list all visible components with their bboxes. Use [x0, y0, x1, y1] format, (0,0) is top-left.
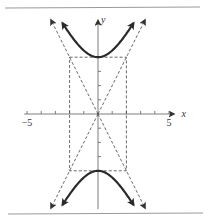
x-tick-label: −5 — [22, 117, 33, 128]
lower-branch-left — [63, 171, 99, 205]
asymptote-negative-half — [51, 20, 98, 114]
x-tick-label: 5 — [167, 117, 172, 128]
bottom-rule — [8, 213, 203, 214]
y-axis-label: y — [100, 14, 106, 25]
top-rule — [5, 7, 200, 8]
x-axis-label: x — [181, 108, 187, 119]
upper-branch-right — [98, 23, 134, 57]
asymptote-positive-half — [51, 114, 98, 208]
lower-branch-right — [98, 171, 134, 205]
plot-area: −55xy — [22, 14, 187, 209]
asymptote-negative-half — [98, 114, 145, 208]
hyperbola-chart: −55xy — [0, 0, 208, 219]
upper-branch-left — [63, 23, 99, 57]
asymptote-positive-half — [98, 20, 145, 114]
